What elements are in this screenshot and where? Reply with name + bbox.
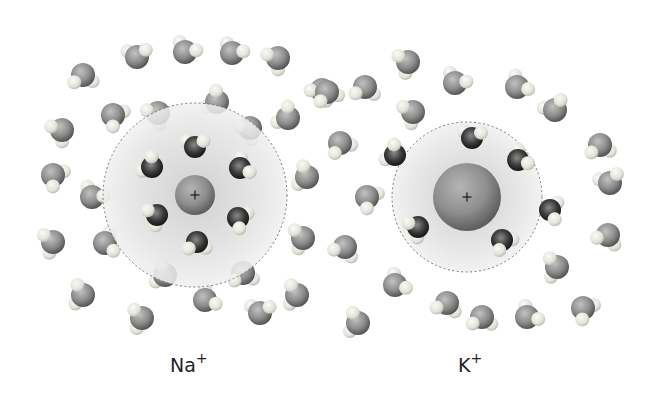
water-molecule: [391, 49, 420, 80]
potassium-symbol: K: [458, 354, 470, 376]
hydrogen-atom: [313, 94, 327, 108]
coordinated-water-molecule: [539, 196, 564, 227]
water-molecule: [291, 159, 319, 191]
hydrogen-atom: [328, 146, 342, 160]
water-molecule: [37, 228, 65, 260]
water-molecule: [355, 185, 385, 215]
hydrogen-atom: [139, 43, 153, 57]
hydrogen-atom: [263, 300, 277, 314]
hydrogen-atom: [349, 86, 363, 100]
hydrogen-atom: [459, 74, 473, 88]
hydrogen-atom: [474, 126, 488, 140]
hydrogen-atom: [554, 93, 568, 107]
water-molecule: [466, 305, 499, 331]
water-molecule: [590, 223, 621, 252]
water-molecule: [430, 291, 462, 318]
hydrogen-atom: [610, 167, 624, 181]
water-molecule: [543, 251, 569, 284]
hydrogen-atom: [106, 119, 120, 133]
sodium-ion-label: Na+: [170, 352, 208, 376]
hydrogen-atom: [396, 100, 410, 114]
hydrogen-atom: [182, 241, 196, 255]
water-molecule: [343, 306, 370, 338]
hydration-shells-layer: [103, 103, 564, 287]
water-molecule: [288, 223, 315, 255]
hydrogen-atom: [243, 165, 257, 179]
water-molecule: [328, 131, 359, 160]
hydrogen-atom: [127, 303, 141, 317]
hydrogen-atom: [209, 297, 223, 311]
water-molecule: [515, 299, 545, 329]
hydrogen-atom: [67, 75, 81, 89]
water-molecule: [44, 118, 74, 148]
hydrogen-atom: [575, 312, 589, 326]
hydrogen-atom: [387, 138, 401, 152]
hydrogen-atom: [141, 203, 155, 217]
hydrogen-atom: [543, 251, 557, 265]
hydrogen-atom: [281, 100, 295, 114]
hydrogen-atom: [236, 44, 250, 58]
hydrogen-atom: [145, 150, 159, 164]
coordinated-water-molecule: [378, 138, 406, 167]
hydrogen-atom: [189, 43, 203, 57]
potassium-charge: +: [470, 350, 482, 366]
hydrogen-atom: [584, 145, 598, 159]
water-molecule: [244, 299, 277, 325]
hydrogen-atom: [360, 201, 374, 215]
hydrogen-atom: [430, 301, 444, 315]
hydrogen-atom: [590, 231, 604, 245]
hydrogen-atom: [401, 216, 415, 230]
water-molecule: [220, 36, 251, 65]
water-molecule: [571, 296, 601, 326]
k-hydration-complex: [378, 122, 564, 272]
sodium-symbol: Na: [170, 354, 196, 376]
hydrogen-atom: [288, 223, 302, 237]
hydrogen-atom: [548, 212, 562, 226]
hydration-diagram: [0, 0, 656, 401]
hydrogen-atom: [260, 47, 274, 61]
water-molecule: [41, 163, 71, 193]
hydrogen-atom: [521, 156, 535, 170]
water-molecule: [283, 278, 309, 311]
hydrogen-atom: [327, 243, 341, 257]
water-molecule: [68, 278, 95, 310]
water-molecule: [101, 103, 131, 133]
water-molecule: [396, 100, 425, 131]
hydrogen-atom: [37, 228, 51, 242]
hydrogen-atom: [284, 278, 298, 292]
water-molecule: [270, 100, 300, 130]
hydrogen-atom: [197, 134, 211, 148]
na-hydration-complex: [103, 103, 287, 287]
hydrogen-atom: [399, 281, 413, 295]
hydrogen-atom: [492, 243, 506, 257]
water-molecule: [584, 133, 616, 159]
water-molecule: [537, 93, 568, 122]
water-molecule: [592, 167, 624, 195]
water-molecule: [327, 235, 358, 264]
water-molecule: [505, 69, 535, 99]
water-molecule: [349, 75, 382, 101]
water-molecule: [383, 267, 413, 297]
water-molecule: [67, 63, 100, 89]
water-molecule: [120, 43, 153, 69]
hydrogen-atom: [531, 312, 545, 326]
hydrogen-atom: [466, 316, 480, 330]
hydrogen-atom: [521, 82, 535, 96]
hydrogen-atom: [232, 221, 246, 235]
hydrogen-atom: [70, 278, 84, 292]
hydrogen-atom: [391, 49, 405, 63]
water-molecule: [443, 66, 473, 95]
hydrogen-atom: [346, 306, 360, 320]
sodium-charge: +: [196, 350, 208, 366]
water-molecule: [127, 303, 154, 335]
hydrogen-atom: [296, 159, 310, 173]
hydrogen-atom: [46, 179, 60, 193]
water-molecule: [173, 35, 204, 64]
hydrogen-atom: [209, 84, 223, 98]
water-molecule: [260, 46, 290, 76]
potassium-ion-label: K+: [458, 352, 482, 376]
hydrogen-atom: [44, 119, 58, 133]
